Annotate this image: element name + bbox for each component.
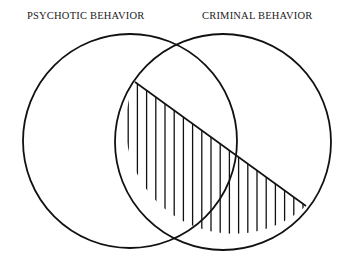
hatched-region xyxy=(119,20,303,260)
psychotic-behavior-circle xyxy=(23,34,237,248)
venn-diagram xyxy=(0,0,351,268)
criminal-behavior-circle xyxy=(115,34,331,250)
